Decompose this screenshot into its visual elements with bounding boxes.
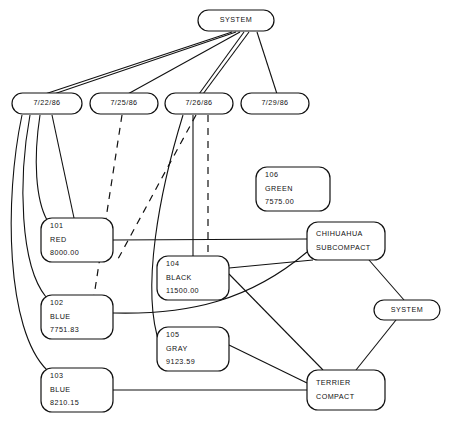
date-node-7-26-86[interactable]: 7/26/86	[165, 93, 233, 114]
item-node-102-blue-text-line-1: 102	[50, 298, 63, 307]
date-node-7-25-86-text-line-1: 7/25/86	[110, 98, 137, 107]
edge-7-22-86-to-101-top	[52, 115, 74, 218]
edge-system-right-to-terrier	[356, 320, 396, 370]
date-node-7-25-86[interactable]: 7/25/86	[90, 93, 158, 114]
item-node-106-green-text-line-2: GREEN	[265, 184, 293, 193]
edge-system-to-7-29-86	[257, 32, 277, 94]
item-node-106-green-text-line-3: 7575.00	[265, 197, 294, 206]
item-node-103-blue[interactable]: 103BLUE8210.15	[41, 368, 113, 412]
item-node-102-blue-text-line-2: BLUE	[50, 312, 71, 321]
system-top-node-text-line-1: SYSTEM	[220, 15, 252, 24]
edge-101-to-chihuahua	[113, 239, 307, 240]
edge-7-25-86-to-102-dashed	[94, 115, 122, 296]
edge-system-to-7-22-86	[42, 32, 232, 95]
item-node-101-red-text-line-2: RED	[50, 235, 67, 244]
item-node-105-gray[interactable]: 105GRAY9123.59	[157, 327, 229, 371]
date-node-7-22-86[interactable]: 7/22/86	[12, 93, 82, 114]
model-node-chihuahua-subcompact[interactable]: CHIHUAHUASUBCOMPACT	[307, 222, 385, 260]
edge-7-26-86-to-101-dashed	[118, 115, 196, 259]
edge-chihuahua-to-system-right	[369, 260, 404, 300]
model-node-terrier-compact-text-line-1: TERRIER	[316, 378, 351, 387]
date-node-7-22-86-text-line-1: 7/22/86	[33, 98, 60, 107]
date-node-7-26-86-text-line-1: 7/26/86	[185, 98, 212, 107]
item-node-105-gray-text-line-3: 9123.59	[166, 357, 195, 366]
item-node-104-black-text-line-1: 104	[166, 259, 179, 268]
date-node-7-29-86-text-line-1: 7/29/86	[261, 98, 288, 107]
model-node-terrier-compact-text-line-2: COMPACT	[316, 392, 355, 401]
item-node-103-blue-text-line-2: BLUE	[50, 385, 71, 394]
network-diagram: SYSTEM7/22/867/25/867/26/867/29/86106GRE…	[0, 0, 450, 424]
item-node-103-blue-text-line-3: 8210.15	[50, 398, 79, 407]
edge-7-22-86-to-102	[23, 115, 46, 297]
edge-7-22-86-to-101	[36, 115, 47, 220]
item-node-104-black[interactable]: 104BLACK11500.00	[157, 256, 229, 300]
item-node-102-blue[interactable]: 102BLUE7751.83	[41, 295, 113, 339]
item-node-105-gray-text-line-2: GRAY	[166, 344, 188, 353]
edge-system-to-7-26-86	[199, 32, 244, 94]
item-node-104-black-text-line-2: BLACK	[166, 273, 192, 282]
item-node-103-blue-text-line-1: 103	[50, 371, 63, 380]
item-node-106-green[interactable]: 106GREEN7575.00	[256, 167, 330, 211]
system-top-node[interactable]: SYSTEM	[198, 10, 274, 31]
system-right-node[interactable]: SYSTEM	[374, 300, 440, 320]
item-node-101-red-text-line-1: 101	[50, 221, 63, 230]
item-node-101-red-text-line-3: 8000.00	[50, 248, 79, 257]
item-node-106-green-text-line-1: 106	[265, 170, 278, 179]
item-node-102-blue-text-line-3: 7751.83	[50, 325, 79, 334]
system-right-node-text-line-1: SYSTEM	[391, 305, 423, 314]
date-node-7-29-86[interactable]: 7/29/86	[241, 93, 309, 114]
edge-104-to-terrier	[229, 274, 323, 370]
item-node-105-gray-text-line-1: 105	[166, 330, 179, 339]
item-node-101-red[interactable]: 101RED8000.00	[41, 218, 113, 262]
model-node-chihuahua-subcompact-text-line-1: CHIHUAHUA	[316, 229, 363, 238]
model-node-chihuahua-subcompact-shape	[307, 222, 385, 260]
diagram-canvas: SYSTEM7/22/867/25/867/26/867/29/86106GRE…	[0, 0, 450, 424]
model-node-terrier-compact[interactable]: TERRIERCOMPACT	[307, 370, 385, 410]
model-node-terrier-compact-shape	[307, 370, 385, 410]
item-node-104-black-text-line-3: 11500.00	[166, 286, 199, 295]
model-node-chihuahua-subcompact-text-line-2: SUBCOMPACT	[316, 243, 371, 252]
edge-105-to-terrier	[229, 345, 307, 383]
edge-chihuahua-to-104	[229, 260, 313, 268]
nodes-layer: SYSTEM7/22/867/25/867/26/867/29/86106GRE…	[12, 10, 440, 412]
